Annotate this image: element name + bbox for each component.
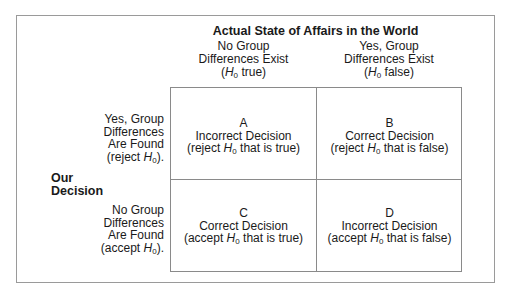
- cell-d: D Incorrect Decision (accept H0 that is …: [317, 207, 462, 249]
- cell-c: C Correct Decision (accept H0 that is tr…: [170, 207, 317, 249]
- cell-b: B Correct Decision (reject H0 that is fa…: [317, 117, 462, 159]
- row-header-reject: Yes, Group Differences Are Found (reject…: [104, 113, 164, 167]
- side-label-our-decision: Our Decision: [51, 172, 103, 198]
- matrix-divider-horizontal: [170, 179, 462, 180]
- column-header-h0-false: Yes, Group Differences Exist (H0 false): [317, 40, 461, 82]
- row-header-accept: No Group Differences Are Found (accept H…: [101, 204, 164, 258]
- cell-a: A Incorrect Decision (reject H0 that is …: [170, 117, 317, 159]
- column-header-h0-true: No Group Differences Exist (H0 true): [170, 40, 317, 82]
- diagram-title: Actual State of Affairs in the World: [170, 24, 461, 38]
